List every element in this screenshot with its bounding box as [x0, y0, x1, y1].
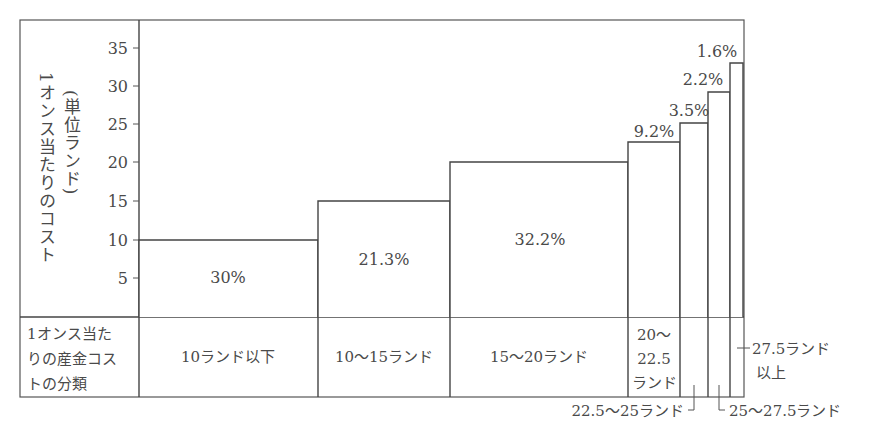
svg-text:32.2%: 32.2%	[515, 230, 566, 249]
svg-text:22.5: 22.5	[637, 350, 670, 368]
callout-labels: 22.5〜25ランド 25〜27.5ランド 27.5ランド 以上	[572, 340, 842, 420]
y-axis-unit: (単位ランド)	[61, 90, 81, 195]
svg-text:1.6%: 1.6%	[697, 42, 738, 61]
svg-text:9.2%: 9.2%	[634, 122, 675, 141]
svg-text:1オンス当た: 1オンス当た	[27, 325, 112, 343]
svg-text:3.5%: 3.5%	[669, 101, 710, 120]
svg-text:10〜15ランド: 10〜15ランド	[335, 348, 433, 366]
svg-text:25: 25	[108, 115, 128, 134]
svg-text:15: 15	[108, 192, 128, 211]
svg-text:35: 35	[108, 39, 128, 58]
svg-text:2.2%: 2.2%	[683, 70, 724, 89]
bar-27_5-over	[730, 63, 743, 317]
svg-text:10ランド以下: 10ランド以下	[181, 348, 275, 366]
svg-text:5: 5	[118, 269, 128, 288]
svg-text:22.5〜25ランド: 22.5〜25ランド	[572, 402, 685, 420]
svg-text:20〜: 20〜	[637, 326, 671, 344]
marimekko-chart: 35 30 25 20 15 10 5 1オンス当たりのコスト (単位ランド) …	[0, 0, 870, 434]
y-axis-label: 1オンス当たりのコスト	[36, 72, 56, 264]
svg-text:10: 10	[108, 231, 128, 250]
table-cells: 10ランド以下 10〜15ランド 15〜20ランド 20〜 22.5 ランド	[181, 326, 677, 392]
svg-text:15〜20ランド: 15〜20ランド	[490, 348, 588, 366]
svg-text:30: 30	[108, 77, 128, 96]
svg-text:りの産金コス: りの産金コス	[27, 350, 117, 368]
svg-text:20: 20	[108, 153, 128, 172]
bar-22_5-25	[680, 123, 708, 317]
svg-text:ランド: ランド	[632, 374, 677, 392]
callout-leaders	[688, 348, 750, 410]
table-header: 1オンス当た りの産金コス トの分類	[27, 325, 117, 393]
y-tick-labels: 35 30 25 20 15 10 5	[108, 39, 128, 288]
svg-text:27.5ランド: 27.5ランド	[752, 340, 830, 358]
svg-text:30%: 30%	[210, 268, 246, 287]
bar-25-27_5	[708, 92, 730, 317]
y-ticks	[133, 48, 139, 278]
svg-text:以上: 以上	[756, 364, 786, 382]
svg-text:トの分類: トの分類	[27, 375, 87, 393]
svg-text:25〜27.5ランド: 25〜27.5ランド	[729, 402, 842, 420]
svg-text:21.3%: 21.3%	[359, 250, 410, 269]
bar-20-22_5	[628, 142, 680, 317]
